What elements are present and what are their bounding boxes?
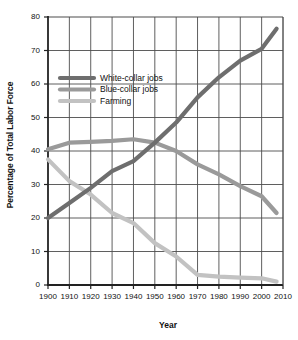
legend-swatches	[60, 78, 94, 101]
series-lines	[48, 29, 277, 282]
series-line-blue-collar-jobs	[48, 139, 277, 213]
y-tick-label: 60	[22, 79, 40, 88]
legend-item-label: Farming	[100, 96, 131, 106]
y-tick-label: 80	[22, 12, 40, 21]
legend-item-label: White-collar jobs	[100, 73, 163, 83]
x-tick-label: 2010	[271, 292, 295, 301]
series-line-farming	[48, 159, 277, 281]
plot-area	[0, 0, 298, 340]
y-tick-label: 50	[22, 113, 40, 122]
y-tick-label: 70	[22, 46, 40, 55]
line-chart: Percentage of Total Labor Force Year 010…	[0, 0, 298, 340]
legend-item-label: Blue-collar jobs	[100, 84, 158, 94]
y-tick-label: 30	[22, 180, 40, 189]
y-tick-label: 40	[22, 146, 40, 155]
y-tick-label: 0	[22, 280, 40, 289]
y-tick-label: 20	[22, 213, 40, 222]
y-tick-label: 10	[22, 247, 40, 256]
